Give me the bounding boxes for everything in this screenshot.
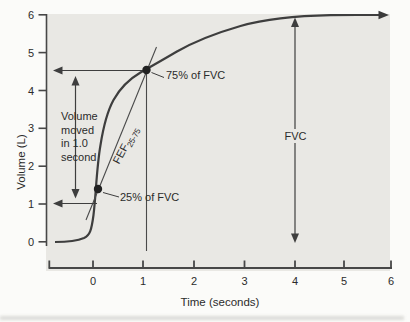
x-tick-label-2: 2	[191, 275, 197, 287]
x-tick-label-0: 0	[90, 275, 96, 287]
annotation-fvc: FVC	[282, 129, 310, 143]
spirometry-figure: Volume (L) Time (seconds) 6 5 4 3 2 1 0 …	[0, 0, 410, 322]
annotation-volume-moved: Volume moved in 1.0 second	[61, 110, 98, 164]
x-tick-label-4: 4	[292, 275, 298, 287]
x-tick-label-3: 3	[241, 275, 247, 287]
y-tick-label-4: 4	[14, 85, 34, 97]
y-tick-label-3: 3	[14, 122, 34, 134]
point-25-percent	[94, 185, 102, 193]
y-tick-label-5: 5	[14, 47, 34, 59]
x-tick-label-5: 5	[341, 275, 347, 287]
y-tick-label-2: 2	[14, 160, 34, 172]
x-tick-label-6: 6	[388, 275, 394, 287]
y-axis	[39, 14, 47, 246]
x-tick-label-1: 1	[140, 275, 146, 287]
point-75-percent	[142, 66, 150, 74]
y-tick-label-6: 6	[14, 9, 34, 21]
annotation-25-percent-fvc: 25% of FVC	[120, 191, 179, 203]
page-edge-shadow	[0, 316, 404, 320]
x-axis-title: Time (seconds)	[181, 296, 260, 308]
y-tick-label-0: 0	[14, 236, 34, 248]
y-tick-label-1: 1	[14, 198, 34, 210]
annotation-75-percent-fvc: 75% of FVC	[166, 69, 225, 81]
